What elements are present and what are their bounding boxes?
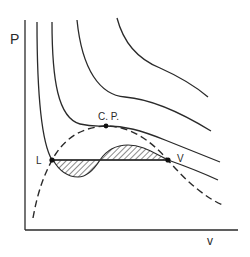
equal-area-regions [53,145,168,177]
isotherm-critical [52,22,220,162]
x-axis-label: v [207,234,213,248]
upper-hatched-region [100,145,168,160]
critical-point-label: C. P. [98,111,119,122]
vapor-point-marker [165,157,170,162]
vapor-label: V [177,153,184,164]
critical-point-marker [104,124,109,129]
pv-diagram: P v C. P. L V [0,0,250,257]
coexistence-curve [33,126,225,218]
y-axis-label: P [10,31,19,47]
liquid-label: L [36,155,42,166]
liquid-point-marker [49,157,54,162]
lower-hatched-region [53,160,100,177]
axes [25,20,238,230]
isotherm-supercritical-2 [117,18,208,97]
